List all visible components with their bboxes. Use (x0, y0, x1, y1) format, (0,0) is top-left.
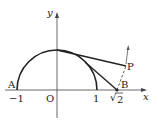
point-A-label: A (8, 80, 15, 90)
tick-sqrt2-radical: √ (110, 93, 116, 103)
origin-label: O (46, 94, 54, 104)
tick-minus-one: −1 (9, 94, 24, 104)
segment-tangent-to-B (85, 62, 117, 90)
tick-sqrt2-value: 2 (117, 95, 123, 105)
y-axis-label: y (47, 8, 53, 18)
tick-one: 1 (93, 94, 99, 104)
x-axis-label: x (143, 92, 149, 102)
segment-top-to-P (57, 50, 126, 66)
y-axis-arrow-icon (55, 12, 59, 18)
diagram-canvas: y x O A B P −1 1 √ 2 (0, 0, 158, 125)
diagram-figure (0, 0, 158, 125)
direction-arrow-head-icon (127, 45, 130, 50)
point-P-label: P (127, 62, 134, 72)
point-B-label: B (121, 80, 128, 90)
